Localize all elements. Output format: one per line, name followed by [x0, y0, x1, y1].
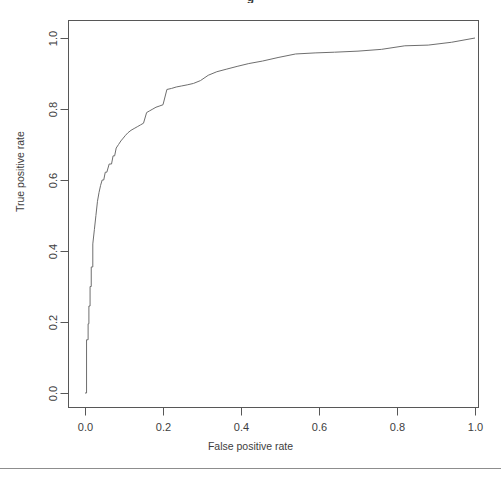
y-axis-ticks [61, 39, 69, 394]
y-axis-label: True positive rate [14, 172, 26, 212]
plot-box [69, 21, 479, 408]
y-tick-label: 0.4 [47, 244, 59, 259]
y-tick-label: 1.0 [47, 31, 59, 46]
x-axis-label: False positive rate [0, 440, 501, 452]
footer-divider [0, 468, 501, 469]
y-tick-label: 0.8 [47, 102, 59, 117]
y-tick-label: 0.6 [47, 173, 59, 188]
x-tick-label: 0.8 [390, 421, 405, 433]
roc-curve [85, 38, 475, 393]
y-tick-label: 0.2 [47, 315, 59, 330]
x-axis-tick-labels: 0.00.20.40.60.81.0 [78, 421, 483, 433]
roc-figure: g 0.00.20.40.60.81.0 0.00.20.40.60.81.0 … [0, 0, 501, 480]
x-tick-label: 0.6 [312, 421, 327, 433]
x-tick-label: 1.0 [468, 421, 483, 433]
x-tick-label: 0.4 [234, 421, 249, 433]
x-tick-label: 0.2 [156, 421, 171, 433]
y-axis-tick-labels: 0.00.20.40.60.81.0 [47, 31, 59, 401]
roc-curve-line [85, 38, 475, 393]
y-tick-label: 0.0 [47, 386, 59, 401]
plot-frame [69, 21, 479, 408]
roc-plot: 0.00.20.40.60.81.0 0.00.20.40.60.81.0 [0, 0, 501, 480]
x-axis-ticks [86, 408, 476, 416]
x-tick-label: 0.0 [78, 421, 93, 433]
